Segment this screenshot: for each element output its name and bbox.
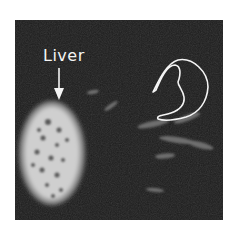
liver-region [19,101,85,205]
liver-label: Liver [43,46,85,65]
scan-image: Liver [15,20,223,220]
